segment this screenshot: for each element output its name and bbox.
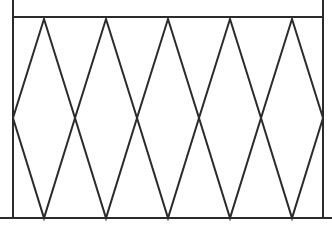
fence-diagram xyxy=(0,0,332,232)
